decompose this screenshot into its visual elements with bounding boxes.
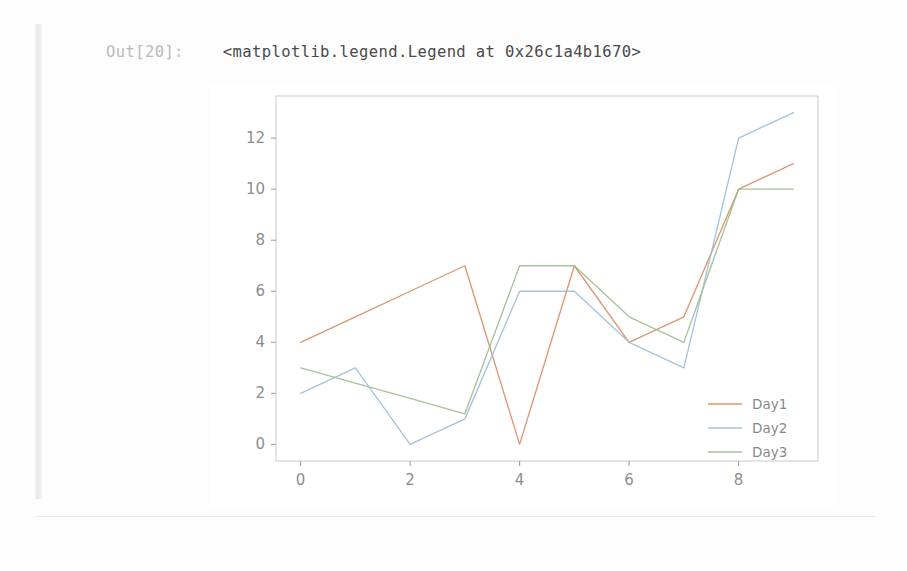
y-tick-label: 10 [246, 180, 265, 198]
plot-svg[interactable]: 024681012 02468 Day1Day2Day3 [210, 86, 835, 506]
y-tick-label: 2 [255, 384, 265, 402]
x-tick-label: 0 [296, 471, 306, 489]
figure-background [210, 86, 835, 506]
x-tick-label: 2 [405, 471, 415, 489]
y-tick-label: 6 [255, 282, 265, 300]
output-line: Out[20]: <matplotlib.legend.Legend at 0x… [106, 43, 641, 61]
legend-label-day3: Day3 [752, 444, 787, 460]
legend-label-day2: Day2 [752, 420, 787, 436]
output-prompt: Out[20]: [106, 43, 184, 61]
legend-label-day1: Day1 [752, 396, 787, 412]
y-tick-label: 12 [246, 129, 265, 147]
notebook-cell-gutter-bar [35, 24, 42, 499]
y-tick-label: 8 [255, 231, 265, 249]
cell-bottom-divider [35, 516, 875, 517]
x-tick-label: 8 [734, 471, 744, 489]
matplotlib-figure[interactable]: 024681012 02468 Day1Day2Day3 [210, 86, 835, 506]
output-repr-text: <matplotlib.legend.Legend at 0x26c1a4b16… [184, 43, 641, 61]
x-tick-label: 4 [515, 471, 525, 489]
x-tick-label: 6 [624, 471, 634, 489]
y-tick-label: 0 [255, 435, 265, 453]
y-tick-label: 4 [255, 333, 265, 351]
